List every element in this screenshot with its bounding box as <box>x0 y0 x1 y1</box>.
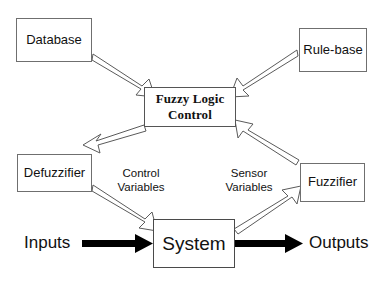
arrow-system-to-outputs <box>235 234 303 253</box>
diagram-canvas: Database Rule-base Fuzzy Logic Control D… <box>0 0 381 293</box>
io-arrows-layer <box>0 0 381 293</box>
arrow-inputs-to-system <box>82 234 153 253</box>
